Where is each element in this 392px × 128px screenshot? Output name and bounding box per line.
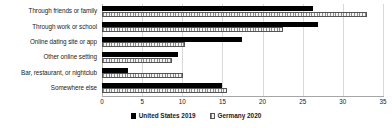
bar-united-states-2019 (102, 6, 313, 11)
category-label: Bar, restaurant, or nightclub (0, 69, 97, 76)
x-tick-label: 35 (379, 98, 386, 106)
category-label: Online dating site or app (0, 38, 97, 45)
legend-item[interactable]: Germany 2020 (210, 112, 262, 120)
bar-group (102, 22, 383, 35)
bar-germany-2020 (102, 58, 172, 63)
bar-united-states-2019 (102, 83, 222, 88)
x-tick-label: 5 (140, 98, 144, 106)
x-tick-label: 15 (219, 98, 226, 106)
x-axis-ticks: 05101520253035 (102, 97, 383, 109)
x-tick-label: 25 (299, 98, 306, 106)
category-label: Other online setting (0, 53, 97, 60)
bar-group (102, 68, 383, 81)
bar-group (102, 37, 383, 50)
category-label: Through work or school (0, 23, 97, 30)
bar-united-states-2019 (102, 68, 128, 73)
plot-area (102, 4, 383, 96)
bar-chart: Through friends or familyThrough work or… (0, 0, 392, 128)
category-label: Somewhere else (0, 84, 97, 91)
bar-united-states-2019 (102, 52, 178, 57)
bar-group (102, 83, 383, 96)
gridline-35 (383, 4, 384, 96)
bar-germany-2020 (102, 42, 185, 47)
legend-label: United States 2019 (139, 112, 196, 120)
legend-item[interactable]: United States 2019 (131, 112, 196, 120)
x-tick-label: 10 (179, 98, 186, 106)
chart-legend: United States 2019Germany 2020 (0, 112, 392, 120)
x-tick-label: 30 (339, 98, 346, 106)
legend-label: Germany 2020 (218, 112, 262, 120)
bar-germany-2020 (102, 27, 283, 32)
bar-germany-2020 (102, 12, 367, 17)
category-axis: Through friends or familyThrough work or… (0, 4, 100, 96)
bar-group (102, 52, 383, 65)
x-tick-label: 0 (100, 98, 104, 106)
solid-black-swatch (131, 113, 137, 119)
category-label: Through friends or family (0, 7, 97, 14)
bar-germany-2020 (102, 73, 183, 78)
bar-germany-2020 (102, 88, 227, 93)
hatched-swatch (210, 113, 216, 119)
bar-united-states-2019 (102, 22, 318, 27)
bar-group (102, 6, 383, 19)
x-tick-label: 20 (259, 98, 266, 106)
bar-united-states-2019 (102, 37, 242, 42)
